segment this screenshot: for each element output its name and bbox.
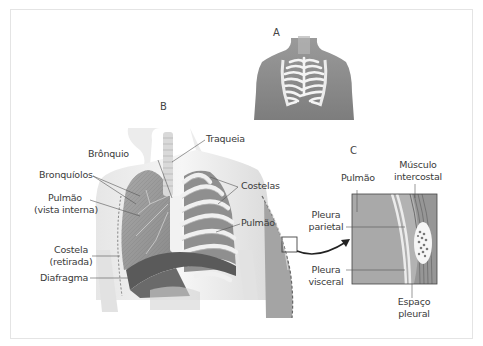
label-costelas: Costelas — [241, 180, 280, 192]
label-parietal-line2: parietal — [306, 221, 346, 233]
label-pulmao: Pulmão — [241, 217, 275, 229]
label-costela-line2: (retirada) — [48, 256, 94, 268]
label-visceral-line1: Pleura — [306, 264, 346, 276]
label-parietal-line1: Pleura — [306, 209, 346, 221]
lung-wall-section — [262, 196, 297, 318]
label-espaco-line1: Espaço — [394, 296, 434, 308]
label-espaco-line2: pleural — [394, 308, 434, 320]
label-visceral-line2: visceral — [306, 276, 346, 288]
panel-label-b: B — [160, 101, 167, 112]
label-bronquiolos: Bronquíolos — [39, 169, 93, 181]
label-espaco-pleural: Espaço pleural — [394, 296, 434, 320]
detail-figure-c — [352, 194, 437, 284]
label-musculo-line1: Músculo — [392, 159, 444, 171]
panel-label-c: C — [350, 145, 357, 156]
panel-label-a: A — [273, 27, 280, 38]
torso-figure-a — [254, 36, 354, 120]
label-musculo-intercostal: Músculo intercostal — [392, 159, 444, 183]
label-musculo-line2: intercostal — [392, 171, 444, 183]
label-pulmao-line1: Pulmão — [34, 192, 96, 204]
label-costela-line1: Costela — [48, 244, 94, 256]
label-c-pulmao: Pulmão — [341, 172, 375, 184]
label-pulmao-line2: (vista interna) — [34, 204, 96, 216]
label-pleura-visceral: Pleura visceral — [306, 264, 346, 288]
label-diafragma: Diafragma — [40, 272, 88, 284]
label-traqueia: Traqueia — [206, 133, 245, 145]
zoom-arrow — [297, 242, 346, 254]
label-bronquio: Brônquio — [88, 148, 129, 160]
label-costela-retirada: Costela (retirada) — [48, 244, 94, 268]
label-pulmao-vista-interna: Pulmão (vista interna) — [34, 192, 96, 216]
label-pleura-parietal: Pleura parietal — [306, 209, 346, 233]
